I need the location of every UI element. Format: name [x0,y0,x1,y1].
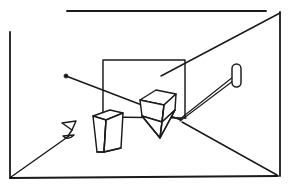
ray-pyramid-to-bottomright [182,122,277,175]
room-bottom-edge [10,176,278,178]
room-enclosure [10,11,280,178]
goblet-bowl [62,121,76,130]
ray-goblet-to-bottomleft [11,136,69,177]
ray-pyramid-to-paddle-lower [180,81,233,121]
object-goblet [62,121,76,138]
sight-lines [11,13,280,177]
object-wedge-prism [93,110,123,152]
object-inverted-pyramid [140,90,176,138]
ray-pyramid-to-paddle-upper [180,77,233,119]
paddle-mirror-icon [232,64,241,87]
light-source-node-icon [64,74,68,78]
line-art-drawing [0,0,288,185]
sketch-canvas [0,0,288,185]
ray-topright-to-panel [161,13,280,76]
